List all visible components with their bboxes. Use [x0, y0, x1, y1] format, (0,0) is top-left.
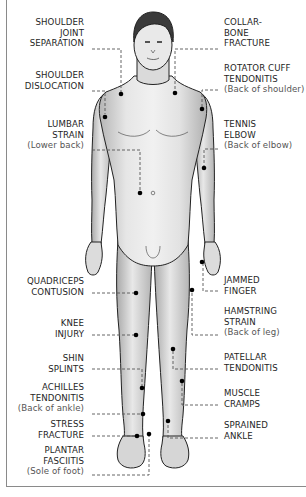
marker-sprained-ankle	[166, 419, 171, 424]
label-tennis-elbow: TENNIS ELBOW (Back of elbow)	[224, 119, 292, 151]
marker-quadriceps-contusion	[134, 291, 139, 296]
label-lumbar-strain: LUMBAR STRAIN (Lower back)	[27, 119, 84, 151]
label-stress-fracture: STRESS FRACTURE	[38, 419, 84, 440]
marker-lumbar-strain	[138, 191, 143, 196]
marker-patellar-tendonitis	[171, 347, 176, 352]
label-plantar-fasciitis: PLANTAR FASCIITIS (Sole of foot)	[27, 445, 84, 477]
label-collarbone-fracture: COLLAR- BONE FRACTURE	[224, 17, 270, 49]
human-figure	[86, 12, 221, 468]
marker-shoulder-joint-separation	[119, 92, 124, 97]
label-sprained-ankle: SPRAINED ANKLE	[224, 420, 268, 441]
label-knee-injury: KNEE INJURY	[55, 318, 84, 339]
label-achilles-tendonitis: ACHILLES TENDONITIS (Back of ankle)	[18, 382, 84, 414]
label-shin-splints: SHIN SPLINTS	[48, 353, 84, 374]
marker-tennis-elbow	[202, 166, 207, 171]
label-rotator-cuff-tendonitis: ROTATOR CUFF TENDONITIS (Back of shoulde…	[224, 63, 304, 95]
label-patellar-tendonitis: PATELLAR TENDONITIS	[224, 352, 278, 373]
marker-shoulder-dislocation	[103, 115, 108, 120]
marker-knee-injury	[134, 333, 139, 338]
label-shoulder-joint-separation: SHOULDER JOINT SEPARATION	[30, 17, 84, 49]
label-hamstring-strain: HAMSTRING STRAIN (Back of leg)	[224, 306, 280, 338]
label-shoulder-dislocation: SHOULDER DISLOCATION	[25, 70, 84, 91]
marker-rotator-cuff-tendonitis	[200, 107, 205, 112]
label-quadriceps-contusion: QUADRICEPS CONTUSION	[27, 276, 84, 297]
marker-shin-splints	[140, 386, 145, 391]
label-jammed-finger: JAMMED FINGER	[224, 275, 260, 296]
marker-collarbone-fracture	[173, 91, 178, 96]
marker-jammed-finger	[200, 260, 205, 265]
marker-stress-fracture	[135, 434, 140, 439]
marker-hamstring-strain	[190, 288, 195, 293]
marker-plantar-fasciitis	[147, 432, 152, 437]
marker-achilles-tendonitis	[141, 412, 146, 417]
label-muscle-cramps: MUSCLE CRAMPS	[224, 388, 260, 409]
marker-muscle-cramps	[180, 379, 185, 384]
